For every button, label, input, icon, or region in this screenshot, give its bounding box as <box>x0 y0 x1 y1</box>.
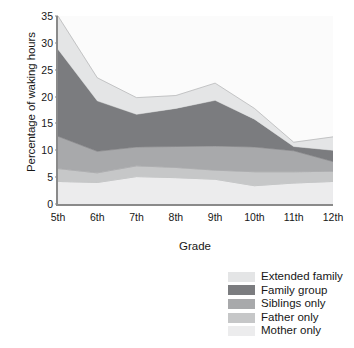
legend-label: Father only <box>261 311 319 325</box>
legend-item: Father only <box>228 311 343 325</box>
y-axis-tick-mark <box>55 42 58 43</box>
y-axis-tick-mark <box>55 69 58 70</box>
y-axis-tick-label: 10 <box>31 144 53 156</box>
chart-legend: Extended familyFamily groupSiblings only… <box>228 270 343 338</box>
legend-item: Mother only <box>228 324 343 338</box>
x-axis-tick-label: 10th <box>244 211 264 223</box>
x-axis-tick-label: 11th <box>284 211 304 223</box>
y-axis-tick-label: 20 <box>31 91 53 103</box>
y-axis-tick-label: 30 <box>31 37 53 49</box>
x-axis-tick-label: 8th <box>169 211 184 223</box>
stacked-area-chart-figure: Percentage of waking hours 0510152025303… <box>0 0 354 348</box>
x-axis-tick-label: 7th <box>129 211 144 223</box>
x-axis-title: Grade <box>55 240 335 252</box>
legend-label: Mother only <box>261 324 321 338</box>
legend-label: Family group <box>261 284 327 298</box>
plot-area: 051015202530355th6th7th8th9th10th11th12t… <box>56 16 333 206</box>
x-axis-tick-label: 9th <box>208 211 223 223</box>
y-axis-tick-label: 0 <box>31 198 53 210</box>
legend-item: Family group <box>228 284 343 298</box>
y-axis-tick-label: 25 <box>31 64 53 76</box>
legend-swatch-icon <box>228 326 255 336</box>
legend-swatch-icon <box>228 313 255 323</box>
legend-item: Extended family <box>228 270 343 284</box>
y-axis-tick-label: 5 <box>31 171 53 183</box>
y-axis-tick-mark <box>55 204 58 205</box>
y-axis-tick-mark <box>55 150 58 151</box>
y-axis-tick-label: 15 <box>31 117 53 129</box>
y-axis-tick-mark <box>55 16 58 17</box>
y-axis-tick-mark <box>55 96 58 97</box>
y-axis-tick-mark <box>55 177 58 178</box>
y-axis-tick-mark <box>55 123 58 124</box>
x-axis-tick-label: 12th <box>323 211 343 223</box>
legend-label: Siblings only <box>261 297 326 311</box>
legend-label: Extended family <box>261 270 343 284</box>
x-axis-tick-label: 6th <box>90 211 105 223</box>
x-axis-tick-label: 5th <box>51 211 66 223</box>
legend-swatch-icon <box>228 299 255 309</box>
y-axis-tick-label: 35 <box>31 10 53 22</box>
legend-swatch-icon <box>228 272 255 282</box>
area-series-svg <box>58 16 333 204</box>
legend-item: Siblings only <box>228 297 343 311</box>
legend-swatch-icon <box>228 285 255 295</box>
